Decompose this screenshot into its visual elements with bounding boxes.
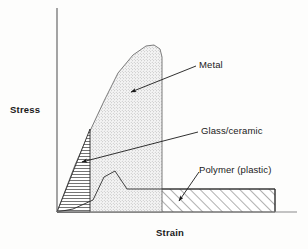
glass-ceramic-curve-region [57, 129, 90, 212]
x-axis-label: Strain [156, 227, 184, 238]
y-axis-label: Stress [10, 104, 40, 115]
metal-callout-label: Metal [199, 59, 223, 70]
glass-ceramic-callout-label: Glass/ceramic [201, 125, 262, 136]
polymer-callout-label: Polymer (plastic) [199, 164, 271, 175]
